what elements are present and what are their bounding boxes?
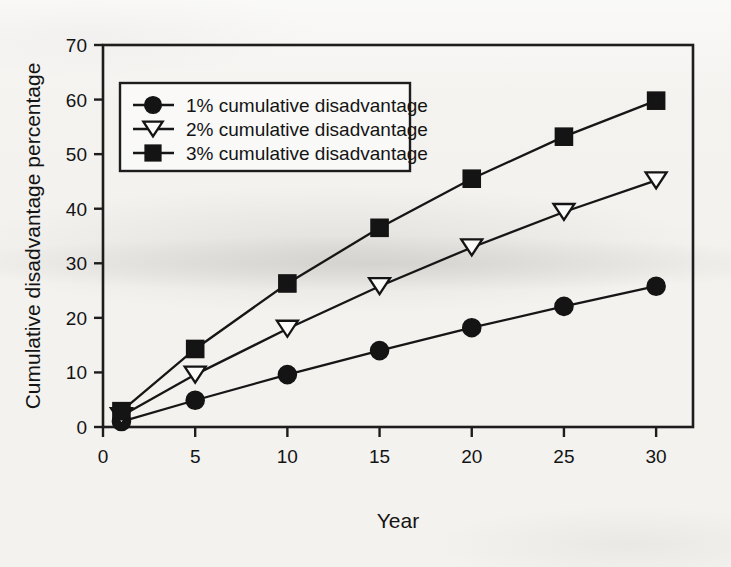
data-point-s3-x1 xyxy=(113,403,130,420)
legend-label-1: 1% cumulative disadvantage xyxy=(186,95,428,116)
legend-marker-1 xyxy=(145,97,162,114)
y-tick-label: 0 xyxy=(76,417,87,438)
x-tick-label: 30 xyxy=(646,446,667,467)
y-tick-label: 70 xyxy=(66,35,87,56)
data-point-s1-x15 xyxy=(371,342,389,360)
x-tick-label: 15 xyxy=(369,446,390,467)
data-point-s3-x5 xyxy=(187,340,204,357)
legend-label-2: 2% cumulative disadvantage xyxy=(186,119,428,140)
legend-label-3: 3% cumulative disadvantage xyxy=(186,143,428,164)
y-tick-label: 40 xyxy=(66,199,87,220)
data-point-s1-x30 xyxy=(647,277,665,295)
y-tick-label: 50 xyxy=(66,144,87,165)
line-chart-canvas: 010203040506070051015202530YearCumulativ… xyxy=(0,0,731,567)
x-tick-label: 20 xyxy=(461,446,482,467)
data-point-s3-x25 xyxy=(555,128,572,145)
series-line-2 xyxy=(121,180,656,416)
x-tick-label: 0 xyxy=(98,446,109,467)
x-tick-label: 10 xyxy=(277,446,298,467)
x-tick-label: 5 xyxy=(190,446,201,467)
data-point-s2-x15 xyxy=(369,278,390,294)
y-tick-label: 60 xyxy=(66,90,87,111)
data-point-s1-x10 xyxy=(278,366,296,384)
data-point-s2-x25 xyxy=(553,204,574,220)
x-tick-label: 25 xyxy=(553,446,574,467)
data-point-s3-x15 xyxy=(371,219,388,236)
data-point-s3-x10 xyxy=(279,275,296,292)
data-point-s3-x20 xyxy=(463,170,480,187)
x-axis-title: Year xyxy=(377,509,419,532)
y-axis-title: Cumulative disadvantage percentage xyxy=(21,63,44,410)
legend-marker-3 xyxy=(145,145,161,161)
y-tick-label: 30 xyxy=(66,253,87,274)
data-point-s2-x30 xyxy=(646,172,667,188)
y-tick-label: 10 xyxy=(66,362,87,383)
data-point-s2-x20 xyxy=(461,239,482,255)
data-point-s2-x5 xyxy=(185,367,206,383)
data-point-s1-x5 xyxy=(186,391,204,409)
data-point-s2-x10 xyxy=(277,321,298,337)
data-point-s1-x25 xyxy=(555,297,573,315)
chart-figure: 010203040506070051015202530YearCumulativ… xyxy=(0,0,731,567)
data-point-s3-x30 xyxy=(648,92,665,109)
y-tick-label: 20 xyxy=(66,308,87,329)
data-point-s1-x20 xyxy=(463,319,481,337)
